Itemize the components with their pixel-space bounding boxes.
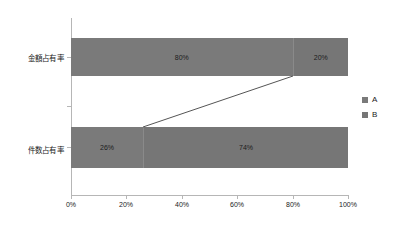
- x-axis-tick-80: [293, 195, 294, 199]
- x-axis-tick-0: [71, 195, 72, 199]
- category-label-quantity-share: 件数占有率: [28, 144, 65, 155]
- legend-label-b: B: [372, 111, 377, 119]
- bar-segment-amount-a[interactable]: 80%: [71, 38, 293, 76]
- x-tick-label-60: 60%: [230, 201, 244, 208]
- x-axis-tick-100: [348, 195, 349, 199]
- legend-label-a: A: [372, 96, 377, 104]
- legend-item-a[interactable]: A: [362, 96, 377, 104]
- bar-segment-quantity-a[interactable]: 26%: [71, 127, 143, 168]
- bar-row-quantity-share: 26% 74%: [71, 127, 348, 168]
- x-tick-label-20: 20%: [119, 201, 133, 208]
- x-tick-label-100: 100%: [339, 201, 357, 208]
- bar-segment-amount-b[interactable]: 20%: [293, 38, 348, 76]
- bar-row-amount-share: 80% 20%: [71, 38, 348, 76]
- stacked-bar-chart: 金額占有率 件数占有率 80% 20% 26% 74% 0% 20% 40% 6…: [0, 0, 408, 233]
- bar-segment-quantity-b[interactable]: 74%: [143, 127, 348, 168]
- legend-swatch-icon-a: [362, 97, 368, 103]
- category-label-amount-share: 金額占有率: [28, 52, 65, 63]
- legend-swatch-icon-b: [362, 112, 368, 118]
- x-axis-tick-40: [182, 195, 183, 199]
- legend-item-b[interactable]: B: [362, 111, 377, 119]
- bar-value-amount-a: 80%: [175, 54, 189, 61]
- chart-legend: A B: [362, 96, 377, 119]
- bar-value-amount-b: 20%: [314, 54, 328, 61]
- x-axis-tick-20: [126, 195, 127, 199]
- x-tick-label-0: 0%: [66, 201, 76, 208]
- segment-connector-line: [0, 0, 408, 233]
- y-axis-tick-mid: [67, 106, 72, 107]
- x-axis-line: [71, 195, 348, 196]
- x-tick-label-80: 80%: [286, 201, 300, 208]
- x-tick-label-40: 40%: [175, 201, 189, 208]
- bar-value-quantity-a: 26%: [100, 144, 114, 151]
- x-axis-tick-60: [237, 195, 238, 199]
- bar-value-quantity-b: 74%: [239, 144, 253, 151]
